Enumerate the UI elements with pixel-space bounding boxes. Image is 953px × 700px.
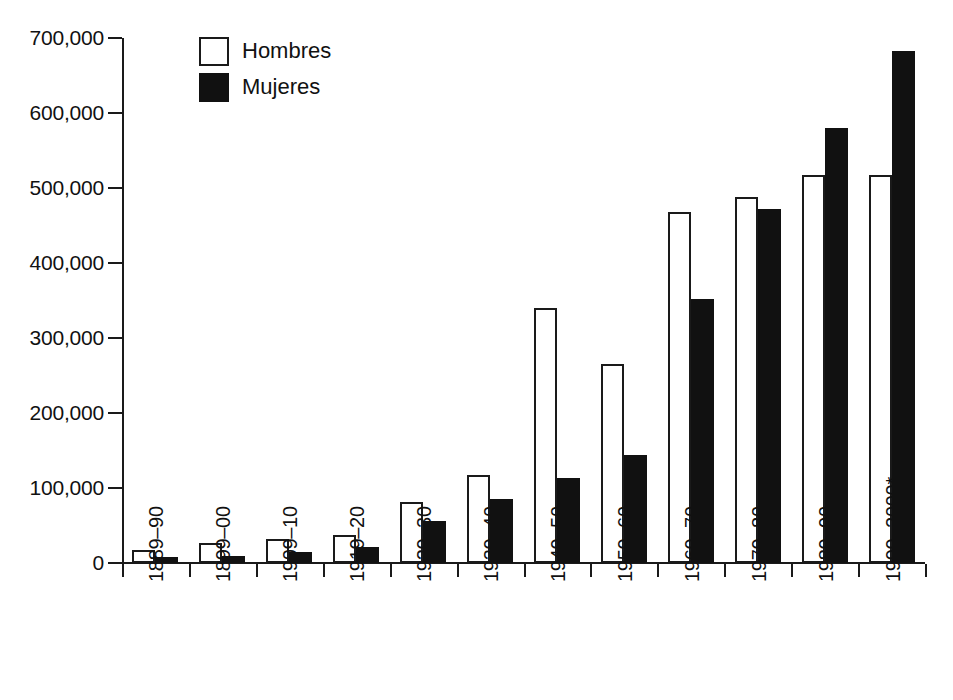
x-axis-category-label: 1899–00 — [213, 506, 233, 582]
x-axis-category-label: 1969–70 — [682, 506, 702, 582]
x-axis-category-label: 1959–60 — [615, 506, 635, 582]
bar-chart: Hombres Mujeres 0100,000200,000300,00040… — [0, 0, 953, 700]
x-axis-tick — [791, 564, 793, 577]
x-axis-tick — [524, 564, 526, 577]
x-axis-category-label: 1949–50 — [548, 506, 568, 582]
x-axis-tick — [925, 564, 927, 577]
x-axis-tick — [724, 564, 726, 577]
x-axis-tick — [457, 564, 459, 577]
y-axis-tick-label: 200,000 — [0, 402, 104, 423]
y-axis-tick — [108, 337, 122, 339]
y-axis-tick-label: 500,000 — [0, 177, 104, 198]
x-axis-tick — [590, 564, 592, 577]
y-axis-tick-label: 300,000 — [0, 327, 104, 348]
bar-hombres — [802, 175, 825, 564]
x-axis-tick — [858, 564, 860, 577]
y-axis-tick-label: 600,000 — [0, 102, 104, 123]
x-axis-category-label: 1989–90 — [816, 506, 836, 582]
y-axis-tick — [108, 487, 122, 489]
plot-area — [122, 38, 925, 563]
x-axis-tick — [657, 564, 659, 577]
bar-group — [802, 128, 848, 563]
y-axis-tick — [108, 112, 122, 114]
y-axis-tick — [108, 262, 122, 264]
bar-mujeres — [825, 128, 848, 563]
y-axis-tick-label: 0 — [0, 552, 104, 573]
x-axis-category-label: 1929–30 — [414, 506, 434, 582]
x-axis-category-label: 1939–40 — [481, 506, 501, 582]
x-axis-tick — [390, 564, 392, 577]
y-axis-tick — [108, 562, 122, 564]
x-axis-category-label: 1889–90 — [146, 506, 166, 582]
y-axis-tick-label: 700,000 — [0, 27, 104, 48]
y-axis-tick — [108, 37, 122, 39]
y-axis-tick — [108, 187, 122, 189]
y-axis-tick — [108, 412, 122, 414]
x-axis-tick — [256, 564, 258, 577]
y-axis-tick-label: 100,000 — [0, 477, 104, 498]
x-axis-category-label: 1909–10 — [280, 506, 300, 582]
y-axis-tick-label: 400,000 — [0, 252, 104, 273]
x-axis-tick — [189, 564, 191, 577]
x-axis-tick — [122, 564, 124, 577]
x-axis-category-label: 1979–80 — [749, 506, 769, 582]
x-axis-tick — [323, 564, 325, 577]
x-axis-category-label: 1999–2000* — [883, 477, 903, 582]
x-axis-category-label: 1919–20 — [347, 506, 367, 582]
